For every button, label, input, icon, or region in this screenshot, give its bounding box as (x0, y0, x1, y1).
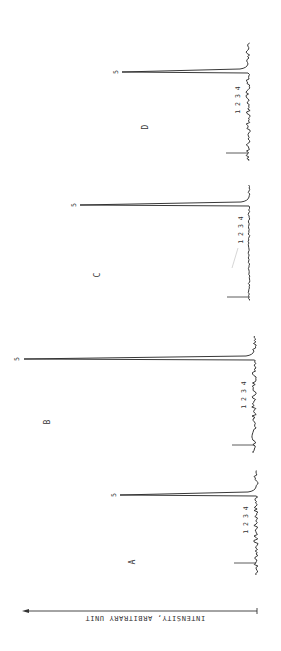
peak-numbers-label: 1 2 3 4 (242, 506, 250, 533)
peak-numbers-label: 1 2 3 4 (237, 216, 245, 243)
panel-label: C (93, 272, 102, 277)
spectrum-b: B1 2 3 45 (13, 336, 256, 452)
spectrum-d: D1 2 3 45 (112, 43, 250, 160)
peak-numbers-label: 1 2 3 4 (234, 86, 242, 113)
spectrum-a: A1 2 3 45 (110, 471, 258, 576)
spectrum-trace (80, 185, 250, 300)
panel-label: D (141, 124, 150, 129)
panel-label: B (43, 419, 52, 424)
spectrum-trace (122, 43, 250, 160)
spectrum-c: C1 2 3 45 (70, 185, 250, 300)
spectrum-trace (120, 471, 258, 576)
peak-5-label: 5 (70, 203, 78, 207)
peak-5-label: 5 (112, 70, 120, 74)
arrow-head-icon (22, 609, 29, 613)
intensity-axis-label: INTENSITY, ARBITRARY UNIT (70, 614, 220, 622)
stray-mark (232, 248, 238, 268)
spectrum-trace (24, 336, 256, 452)
peak-5-label: 5 (13, 357, 21, 361)
panel-label: A (128, 559, 137, 564)
peak-5-label: 5 (110, 493, 118, 497)
spectra-figure: A1 2 3 45B1 2 3 45C1 2 3 45D1 2 3 45 (0, 0, 281, 651)
peak-numbers-label: 1 2 3 4 (240, 381, 248, 408)
